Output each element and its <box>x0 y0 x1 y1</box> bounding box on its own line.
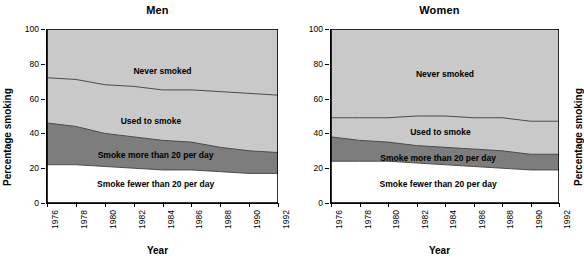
band-label-never-smoked-women: Never smoked <box>416 69 474 79</box>
x-axis-tick <box>445 203 446 207</box>
x-axis-tick-label: 1982 <box>421 210 430 229</box>
y-axis-tick-label: 100 <box>25 25 39 34</box>
y-axis-tick <box>325 99 329 100</box>
x-axis-tick <box>388 203 389 207</box>
x-axis-men: 197619781980198219841986198819901992 <box>46 203 279 204</box>
y-axis-tick-label: 60 <box>30 94 39 103</box>
band-label-used-to-smoke-men: Used to smoke <box>121 116 181 126</box>
y-axis-men: 020406080100 <box>46 29 47 203</box>
y-axis-tick-label: 80 <box>314 60 323 69</box>
x-axis-tick-label: 1976 <box>51 210 60 229</box>
y-axis-tick <box>325 168 329 169</box>
x-axis-tick-label: 1976 <box>335 210 344 229</box>
x-axis-tick <box>249 203 250 207</box>
x-axis-tick <box>502 203 503 207</box>
band-label-never-smoked-men: Never smoked <box>133 66 191 76</box>
y-axis-tick <box>41 168 45 169</box>
y-axis-title-men: Percentage smoking <box>2 88 13 186</box>
y-axis-tick-label: 100 <box>309 25 323 34</box>
x-axis-tick <box>531 203 532 207</box>
x-axis-tick <box>47 203 48 207</box>
x-axis-tick-label: 1984 <box>167 210 176 229</box>
y-axis-tick-label: 0 <box>34 199 39 208</box>
band-label-smoke-more-than-20-women: Smoke more than 20 per day <box>380 153 496 163</box>
x-axis-tick-label: 1980 <box>392 210 401 229</box>
x-axis-tick-label: 1992 <box>563 210 572 229</box>
x-axis-tick-label: 1980 <box>109 210 118 229</box>
y-axis-tick <box>41 203 45 204</box>
x-axis-tick <box>105 203 106 207</box>
band-label-used-to-smoke-women: Used to smoke <box>410 127 470 137</box>
y-axis-tick <box>41 29 45 30</box>
x-axis-tick-label: 1982 <box>138 210 147 229</box>
y-axis-tick <box>41 99 45 100</box>
x-axis-tick-label: 1986 <box>195 210 204 229</box>
x-axis-tick <box>360 203 361 207</box>
plot-area-men: Never smoked Used to smoke Smoke more th… <box>47 29 278 203</box>
y-axis-title-women: Percentage smoking <box>573 88 584 186</box>
y-axis-tick-label: 20 <box>314 164 323 173</box>
stacked-area-svg-women <box>331 29 559 203</box>
y-axis-tick <box>41 133 45 134</box>
x-axis-tick <box>76 203 77 207</box>
band-label-smoke-fewer-than-20-men: Smoke fewer than 20 per day <box>97 179 214 189</box>
x-axis-tick <box>417 203 418 207</box>
y-axis-tick-label: 20 <box>30 164 39 173</box>
y-axis-tick <box>325 133 329 134</box>
y-axis-tick-label: 40 <box>30 129 39 138</box>
x-axis-tick <box>191 203 192 207</box>
x-axis-tick-label: 1988 <box>506 210 515 229</box>
x-axis-tick-label: 1984 <box>449 210 458 229</box>
chart-panel-men: Men Never smoked Used to smoke Smoke mo <box>0 0 285 268</box>
band-label-smoke-fewer-than-20-women: Smoke fewer than 20 per day <box>380 179 497 189</box>
y-axis-tick <box>325 29 329 30</box>
y-axis-tick <box>41 64 45 65</box>
panel-title-women: Women <box>285 4 569 16</box>
x-axis-title-women: Year <box>285 245 569 256</box>
y-axis-tick-label: 40 <box>314 129 323 138</box>
x-axis-tick <box>134 203 135 207</box>
x-axis-title-men: Year <box>0 245 285 256</box>
y-axis-tick-label: 0 <box>318 199 323 208</box>
x-axis-tick <box>474 203 475 207</box>
plot-area-women: Never smoked Used to smoke Smoke more th… <box>331 29 559 203</box>
y-axis-tick-label: 60 <box>314 94 323 103</box>
x-axis-tick-label: 1978 <box>364 210 373 229</box>
y-axis-women: 020406080100 <box>330 29 331 203</box>
x-axis-tick <box>331 203 332 207</box>
x-axis-tick <box>220 203 221 207</box>
y-axis-tick <box>325 203 329 204</box>
band-label-smoke-more-than-20-men: Smoke more than 20 per day <box>98 150 214 160</box>
x-axis-tick-label: 1988 <box>224 210 233 229</box>
x-axis-tick-label: 1986 <box>478 210 487 229</box>
x-axis-women: 197619781980198219841986198819901992 <box>330 203 560 204</box>
x-axis-tick <box>559 203 560 207</box>
x-axis-tick-label: 1990 <box>253 210 262 229</box>
x-axis-tick <box>163 203 164 207</box>
chart-panel-women: Women Never smoked Used to smoke Smoke <box>285 0 569 268</box>
panel-title-men: Men <box>0 4 285 16</box>
y-axis-tick <box>325 64 329 65</box>
x-axis-tick-label: 1990 <box>535 210 544 229</box>
y-axis-tick-label: 80 <box>30 60 39 69</box>
x-axis-tick-label: 1978 <box>80 210 89 229</box>
x-axis-tick <box>278 203 279 207</box>
